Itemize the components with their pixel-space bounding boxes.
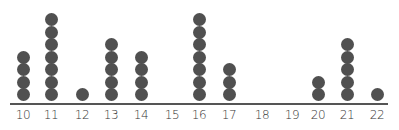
x-tick-label: 10 <box>16 108 31 122</box>
data-dot <box>105 51 118 64</box>
data-dot <box>45 51 58 64</box>
x-axis-line <box>10 103 388 105</box>
data-dot <box>135 76 148 89</box>
data-dot <box>105 63 118 76</box>
data-dot <box>223 76 236 89</box>
data-dot <box>193 38 206 51</box>
data-dot <box>341 63 354 76</box>
data-dot <box>17 51 30 64</box>
data-dot <box>135 51 148 64</box>
x-tick-label: 14 <box>134 108 149 122</box>
data-dot <box>193 63 206 76</box>
data-dot <box>45 38 58 51</box>
data-dot <box>223 88 236 101</box>
x-tick-label: 16 <box>192 108 207 122</box>
data-dot <box>341 51 354 64</box>
x-tick-label: 21 <box>340 108 355 122</box>
data-dot <box>135 88 148 101</box>
data-dot <box>45 63 58 76</box>
data-dot <box>193 13 206 26</box>
x-tick-label: 13 <box>104 108 119 122</box>
data-dot <box>105 76 118 89</box>
data-dot <box>76 88 89 101</box>
dot-plot-chart: 10111213141516171819202122 <box>0 0 399 130</box>
data-dot <box>341 38 354 51</box>
x-tick-label: 19 <box>285 108 300 122</box>
data-dot <box>223 63 236 76</box>
data-dot <box>135 63 148 76</box>
data-dot <box>341 88 354 101</box>
data-dot <box>193 26 206 39</box>
data-dot <box>371 88 384 101</box>
data-dot <box>193 88 206 101</box>
x-tick-label: 22 <box>370 108 385 122</box>
data-dot <box>45 26 58 39</box>
x-tick-label: 11 <box>44 108 59 122</box>
data-dot <box>45 88 58 101</box>
x-tick-label: 18 <box>255 108 270 122</box>
data-dot <box>312 88 325 101</box>
x-tick-label: 17 <box>222 108 237 122</box>
data-dot <box>105 38 118 51</box>
data-dot <box>17 63 30 76</box>
data-dot <box>17 76 30 89</box>
data-dot <box>341 76 354 89</box>
data-dot <box>45 76 58 89</box>
data-dot <box>17 88 30 101</box>
data-dot <box>45 13 58 26</box>
x-tick-label: 20 <box>311 108 326 122</box>
x-tick-label: 12 <box>75 108 90 122</box>
data-dot <box>193 76 206 89</box>
data-dot <box>312 76 325 89</box>
data-dot <box>193 51 206 64</box>
x-tick-label: 15 <box>165 108 180 122</box>
data-dot <box>105 88 118 101</box>
